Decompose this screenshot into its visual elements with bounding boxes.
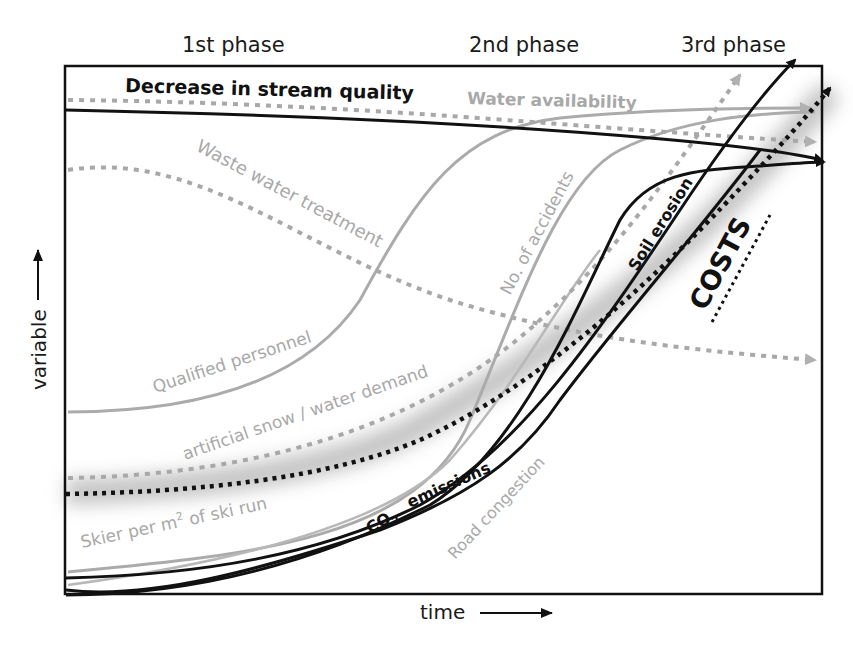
x-axis-label: time: [420, 600, 465, 624]
series-qualified-personnel: [68, 108, 810, 412]
label-co2: CO2: [363, 505, 403, 541]
chart: 1st phase 2nd phase 3rd phase Decrease i…: [0, 0, 853, 650]
phase-1-label: 1st phase: [182, 33, 285, 57]
phase-3-label: 3rd phase: [681, 33, 786, 57]
label-accidents: No. of accidents: [496, 168, 578, 298]
label-personnel: Qualified personnel: [150, 327, 314, 397]
label-stream-quality: Decrease in stream quality: [125, 74, 415, 104]
phase-2-label: 2nd phase: [469, 33, 579, 57]
y-axis-label: variable: [27, 309, 51, 390]
label-water-availability: Water availability: [467, 88, 637, 112]
